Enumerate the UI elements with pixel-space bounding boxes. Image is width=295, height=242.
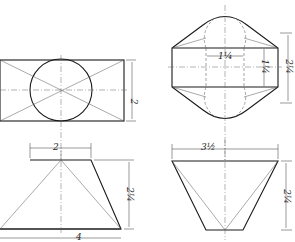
dim-right-front-top-width: 3½: [201, 143, 215, 152]
dim-right-front-height: 2¼: [282, 189, 291, 203]
dim-left-front-height: 2¼: [125, 187, 134, 201]
dim-right-top-overall-height: 2¼: [284, 59, 293, 73]
right-front-view: [172, 140, 292, 240]
dim-left-top-height: 2: [129, 99, 138, 105]
dim-right-top-inner-height: 1¼: [260, 59, 269, 73]
technical-drawing: [0, 0, 295, 242]
right-top-view: [168, 5, 292, 160]
dim-left-front-top-width: 2: [53, 143, 59, 152]
left-top-view: [0, 55, 136, 160]
dim-left-front-bottom-width: 4: [76, 233, 82, 242]
left-front-view: [0, 143, 134, 238]
dim-right-top-inner-width: 1¼: [218, 52, 232, 61]
